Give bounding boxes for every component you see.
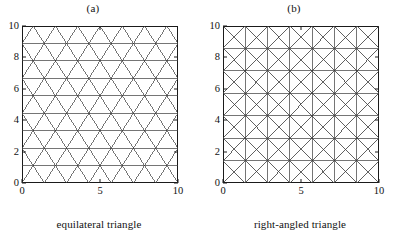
ytick-label-b-6: 6 bbox=[215, 84, 220, 95]
panel-b-plot: 0 2 4 6 8 10 0 5 10 bbox=[223, 26, 379, 183]
panel-b: (b) 0 2 4 6 8 10 0 5 10 bbox=[201, 0, 403, 237]
ytick-mark-8 bbox=[22, 57, 26, 58]
xtick-label-b-10: 10 bbox=[374, 186, 385, 197]
ytick-mark-b-10 bbox=[223, 26, 227, 27]
panel-a-title: (a) bbox=[0, 2, 194, 15]
xtick-mark-b-top-5 bbox=[301, 26, 302, 30]
ytick-mark-right-4 bbox=[174, 120, 178, 121]
ytick-label-2: 2 bbox=[14, 146, 19, 157]
xtick-label-5: 5 bbox=[97, 186, 102, 197]
xtick-mark-0 bbox=[22, 179, 23, 183]
xtick-label-b-5: 5 bbox=[298, 186, 303, 197]
ytick-label-b-2: 2 bbox=[215, 146, 220, 157]
ytick-label-6: 6 bbox=[14, 84, 19, 95]
xtick-label-b-0: 0 bbox=[220, 186, 225, 197]
ytick-mark-b-right-2 bbox=[375, 151, 379, 152]
ytick-mark-b-right-4 bbox=[375, 120, 379, 121]
panel-a: (a) 0 2 4 6 8 10 bbox=[0, 0, 202, 237]
ytick-label-8: 8 bbox=[14, 52, 19, 63]
xtick-mark-5 bbox=[100, 179, 101, 183]
ytick-mark-10 bbox=[22, 26, 26, 27]
ytick-mark-b-2 bbox=[223, 151, 227, 152]
xtick-mark-b-10 bbox=[379, 179, 380, 183]
panel-b-title: (b) bbox=[193, 2, 395, 15]
ytick-mark-b-right-6 bbox=[375, 88, 379, 89]
ytick-label-b-0: 0 bbox=[215, 178, 220, 189]
ytick-mark-b-0 bbox=[223, 183, 227, 184]
xtick-mark-b-5 bbox=[301, 179, 302, 183]
right-angled-triangle-mesh bbox=[223, 26, 379, 183]
panel-b-caption: right-angled triangle bbox=[199, 218, 401, 231]
xtick-label-10: 10 bbox=[173, 186, 184, 197]
panel-a-plot: 0 2 4 6 8 10 0 5 10 bbox=[22, 26, 178, 183]
equilateral-triangle-mesh bbox=[22, 26, 178, 183]
ytick-label-4: 4 bbox=[14, 115, 19, 126]
ytick-label-b-4: 4 bbox=[215, 115, 220, 126]
ytick-mark-right-8 bbox=[174, 57, 178, 58]
panel-a-caption: equilateral triangle bbox=[0, 218, 200, 231]
xtick-label-0: 0 bbox=[19, 186, 24, 197]
ytick-mark-right-2 bbox=[174, 151, 178, 152]
ytick-mark-right-6 bbox=[174, 88, 178, 89]
ytick-mark-0 bbox=[22, 183, 26, 184]
ytick-label-b-10: 10 bbox=[210, 21, 221, 32]
xtick-mark-top-5 bbox=[100, 26, 101, 30]
ytick-mark-6 bbox=[22, 88, 26, 89]
figure-container: (a) 0 2 4 6 8 10 bbox=[0, 0, 405, 237]
ytick-label-0: 0 bbox=[14, 178, 19, 189]
xtick-mark-b-0 bbox=[223, 179, 224, 183]
ytick-mark-b-right-8 bbox=[375, 57, 379, 58]
ytick-mark-2 bbox=[22, 151, 26, 152]
ytick-label-b-8: 8 bbox=[215, 52, 220, 63]
xtick-mark-10 bbox=[178, 179, 179, 183]
ytick-label-10: 10 bbox=[9, 21, 20, 32]
ytick-mark-4 bbox=[22, 120, 26, 121]
ytick-mark-b-8 bbox=[223, 57, 227, 58]
ytick-mark-b-4 bbox=[223, 120, 227, 121]
ytick-mark-b-6 bbox=[223, 88, 227, 89]
